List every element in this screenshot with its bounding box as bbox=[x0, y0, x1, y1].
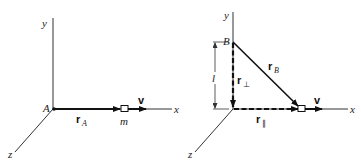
point-B-label: B bbox=[223, 35, 230, 47]
rB-subscript: B bbox=[274, 66, 279, 75]
rA-subscript: A bbox=[81, 119, 87, 128]
origin-label: A bbox=[42, 102, 50, 114]
mass-label: m bbox=[120, 115, 128, 127]
r-perp-symbol: r bbox=[237, 74, 242, 86]
distance-label: l bbox=[212, 72, 215, 84]
mass-block bbox=[298, 106, 305, 112]
z-axis bbox=[195, 109, 233, 152]
left-panel: y x z A v m r A bbox=[7, 17, 179, 160]
velocity-label: v bbox=[138, 94, 145, 106]
y-axis-label: y bbox=[41, 17, 47, 29]
z-axis-label: z bbox=[187, 148, 193, 160]
right-panel: y x z B l r ⊥ r B r ∥ v bbox=[187, 9, 355, 160]
y-axis-label: y bbox=[223, 9, 229, 21]
r-perp-subscript: ⊥ bbox=[243, 80, 250, 89]
velocity-label: v bbox=[314, 94, 321, 106]
rA-symbol: r bbox=[76, 113, 81, 125]
r-parallel-subscript: ∥ bbox=[262, 119, 266, 128]
rB-symbol: r bbox=[268, 60, 273, 72]
x-axis-label: x bbox=[349, 103, 355, 115]
r-parallel-symbol: r bbox=[256, 113, 261, 125]
z-axis bbox=[15, 109, 53, 152]
mass-block bbox=[121, 106, 128, 112]
x-axis-label: x bbox=[173, 103, 179, 115]
angular-momentum-diagram: y x z A v m r A y x z B l r ⊥ r B bbox=[0, 0, 361, 168]
position-vector-rB bbox=[233, 42, 298, 106]
z-axis-label: z bbox=[7, 148, 13, 160]
